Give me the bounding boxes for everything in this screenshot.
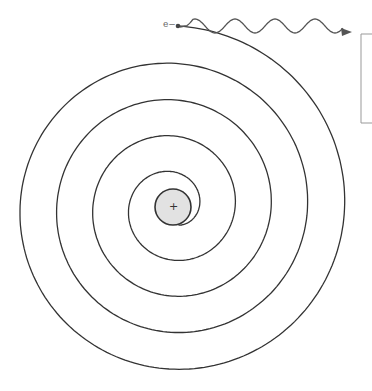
electron-label: e− <box>163 19 176 29</box>
arrow-head-icon <box>341 28 352 36</box>
electron-dot <box>176 24 181 29</box>
side-box <box>361 34 372 123</box>
atom-spiral-diagram <box>0 0 372 391</box>
radiation-wave <box>180 19 343 33</box>
nucleus-charge-label: + <box>169 201 178 212</box>
